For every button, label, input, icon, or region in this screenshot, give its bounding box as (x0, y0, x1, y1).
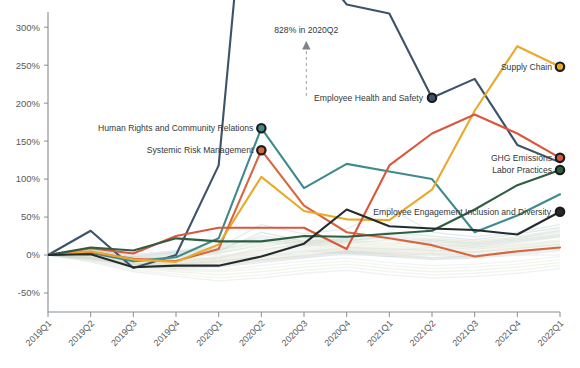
annotation-arrow-icon (302, 41, 310, 50)
y-tick-label: 50% (21, 211, 41, 222)
series-endpoint-marker[interactable] (428, 94, 436, 102)
series-endpoint-marker[interactable] (556, 166, 564, 174)
series-label: Human Rights and Community Relations (98, 123, 253, 133)
x-tick-label: 2019Q1 (24, 318, 54, 348)
x-tick-label: 2020Q4 (322, 318, 352, 348)
y-tick-label: 300% (16, 22, 41, 33)
x-tick-label: 2021Q2 (408, 318, 438, 348)
chart-root: 300%250%200%150%100%50%0%-50% 2019Q12019… (0, 0, 580, 368)
series-endpoint-marker[interactable] (556, 208, 564, 216)
series-labels-layer: Supply ChainGHG EmissionsLabor Practices… (98, 62, 552, 217)
x-tick-label: 2022Q1 (536, 318, 566, 348)
x-tick-label: 2021Q4 (493, 318, 523, 348)
y-tick-label: 150% (16, 136, 41, 147)
series-label: Employee Health and Safety (314, 93, 424, 103)
series-endpoint-marker[interactable] (556, 154, 564, 162)
line-chart: 300%250%200%150%100%50%0%-50% 2019Q12019… (0, 0, 580, 368)
series-endpoint-marker[interactable] (257, 124, 265, 132)
series-marker-layer (257, 62, 564, 215)
series-label: Systemic Risk Management (147, 145, 254, 155)
series-endpoint-marker[interactable] (556, 62, 564, 70)
x-axis-tick-labels: 2019Q12019Q22019Q32019Q42020Q12020Q22020… (24, 318, 566, 348)
foreground-series-layer (48, 0, 560, 268)
x-tick-label: 2021Q3 (450, 318, 480, 348)
annotation-label: 828% in 2020Q2 (274, 25, 338, 35)
x-tick-label: 2019Q2 (66, 318, 96, 348)
y-tick-label: 250% (16, 60, 41, 71)
series-label: Labor Practices (492, 165, 552, 175)
y-tick-label: 100% (16, 173, 41, 184)
x-tick-label: 2020Q3 (280, 318, 310, 348)
series-label: Supply Chain (501, 62, 552, 72)
y-tick-label: -50% (18, 287, 41, 298)
x-tick-label: 2021Q1 (365, 318, 395, 348)
axis-layer (44, 12, 560, 317)
x-tick-label: 2019Q4 (152, 318, 182, 348)
y-tick-label: 0% (26, 249, 40, 260)
annotation-layer: 828% in 2020Q2 (274, 25, 338, 96)
series-endpoint-marker[interactable] (257, 146, 265, 154)
series-label: Employee Engagement Inclusion and Divers… (373, 207, 551, 217)
y-axis-tick-labels: 300%250%200%150%100%50%0%-50% (16, 22, 41, 299)
x-tick-label: 2019Q3 (109, 318, 139, 348)
y-tick-label: 200% (16, 98, 41, 109)
x-tick-label: 2020Q1 (194, 318, 224, 348)
series-label: GHG Emissions (491, 153, 552, 163)
x-tick-label: 2020Q2 (237, 318, 267, 348)
